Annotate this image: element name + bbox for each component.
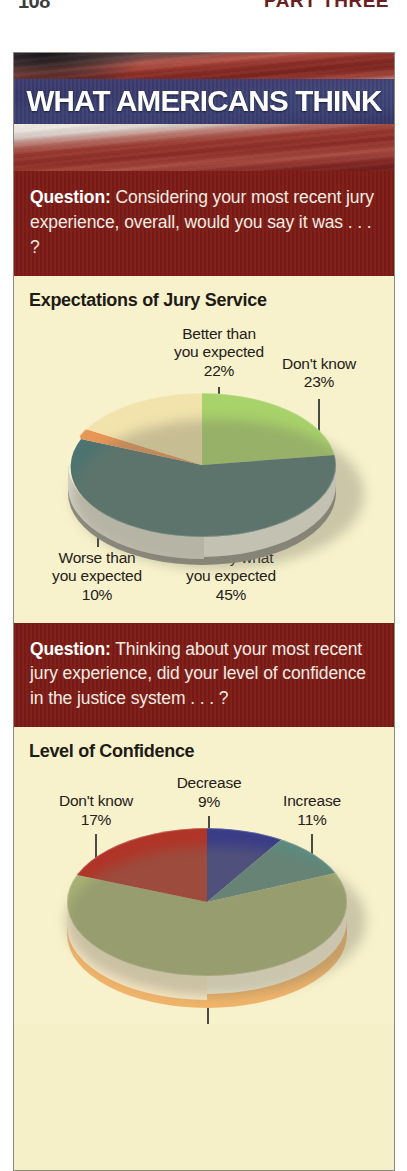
pie1-dropshadow: [72, 419, 364, 569]
pie2-dropshadow: [66, 846, 366, 996]
pie1-label-worse-line2: you expected: [32, 567, 162, 586]
chart-panel-1: Expectations of Jury Service Better than…: [14, 276, 394, 623]
pie2-label-decrease-value: 9%: [154, 793, 264, 812]
pie2-label-decrease: Decrease 9%: [154, 774, 264, 812]
pie-chart-2: Decrease 9% Increase 11% Don't know 17%: [14, 764, 394, 1024]
flag-banner: WHAT AMERICANS THINK: [14, 53, 394, 171]
banner-title: WHAT AMERICANS THINK: [14, 79, 394, 124]
chart-title-1: Expectations of Jury Service: [14, 286, 394, 313]
pie1-graphic: [54, 393, 354, 563]
running-head: PART THREE: [264, 0, 389, 12]
what-americans-think-infobox: WHAT AMERICANS THINK Question: Consideri…: [13, 52, 395, 1171]
question-label-1: Question:: [30, 187, 111, 207]
pie1-label-worse-value: 10%: [32, 586, 162, 605]
pie1-label-dontknow-value: 23%: [259, 373, 379, 392]
question-block-2: Question: Thinking about your most recen…: [14, 623, 394, 728]
pie-chart-1: Better than you expected 22% Don't know …: [14, 313, 394, 623]
pie1-label-dontknow-line1: Don't know: [259, 355, 379, 374]
question-block-1: Question: Considering your most recent j…: [14, 171, 394, 276]
page-number: 108: [18, 0, 50, 13]
question-label-2: Question:: [30, 639, 111, 659]
pie2-label-dontknow-line1: Don't know: [36, 792, 156, 811]
chart-panel-2: Level of Confidence Decrease 9% Increase…: [14, 727, 394, 1024]
pie2-label-increase-line1: Increase: [257, 792, 367, 811]
pie1-label-exactly-line2: you expected: [166, 567, 296, 586]
chart-title-2: Level of Confidence: [14, 737, 394, 764]
pie1-label-better-line1: Better than: [154, 325, 284, 344]
pie2-graphic: [44, 824, 374, 1024]
pie1-label-exactly-value: 45%: [166, 586, 296, 605]
pie2-label-decrease-line1: Decrease: [154, 774, 264, 793]
pie1-label-dontknow: Don't know 23%: [259, 355, 379, 393]
page-header: 108 PART THREE: [0, 0, 407, 18]
